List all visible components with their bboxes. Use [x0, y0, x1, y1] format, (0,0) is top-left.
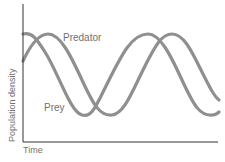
y-axis-label: Population density: [7, 68, 17, 142]
chart-canvas: Predator Prey Time Population density: [0, 0, 225, 162]
predator-label: Predator: [63, 32, 102, 43]
prey-label: Prey: [44, 102, 65, 113]
x-axis-label: Time: [23, 145, 43, 155]
predator-prey-chart: Predator Prey Time Population density: [0, 0, 225, 162]
